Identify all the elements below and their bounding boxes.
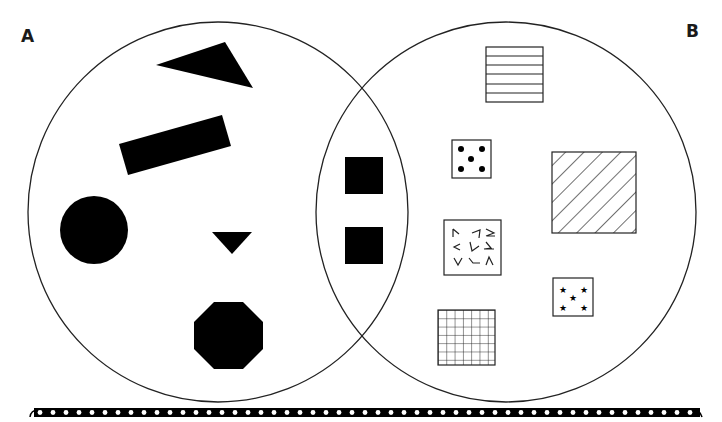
grid-square: [438, 310, 495, 365]
svg-text:★: ★: [559, 285, 567, 295]
svg-text:★: ★: [580, 303, 588, 313]
set-b-only-shapes: ★ ★ ★ ★ ★: [438, 47, 636, 365]
dotted-rail-border: [30, 408, 702, 417]
svg-text:★: ★: [580, 285, 588, 295]
black-square-top: [345, 157, 383, 194]
horizontal-lines-square: [486, 47, 543, 102]
black-square-bottom: [345, 227, 383, 264]
svg-text:★: ★: [569, 293, 577, 303]
black-octagon: [194, 302, 263, 369]
black-small-triangle: [212, 232, 252, 254]
five-stars-square: ★ ★ ★ ★ ★: [553, 278, 593, 316]
five-dots-square: [452, 140, 491, 178]
black-triangle: [156, 42, 253, 88]
diagonal-hatch-square: [552, 152, 636, 233]
set-a-only-shapes: [60, 42, 263, 369]
intersection-shapes: [345, 157, 383, 264]
black-rotated-rectangle: [119, 115, 231, 175]
venn-diagram: ★ ★ ★ ★ ★: [0, 0, 722, 422]
scattered-chevrons-square: [444, 220, 501, 275]
svg-text:★: ★: [559, 303, 567, 313]
black-circle: [60, 196, 128, 264]
